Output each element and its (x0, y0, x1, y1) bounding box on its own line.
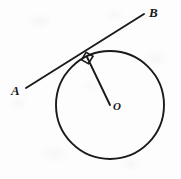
label-point-a: A (11, 84, 20, 97)
label-point-b: B (149, 6, 158, 19)
geometry-canvas (0, 0, 181, 179)
label-center-o: O (113, 101, 121, 112)
tangent-line-ab (26, 14, 144, 88)
geometry-figure: A B O (0, 0, 181, 179)
radius-to-tangent-point (87, 57, 110, 105)
